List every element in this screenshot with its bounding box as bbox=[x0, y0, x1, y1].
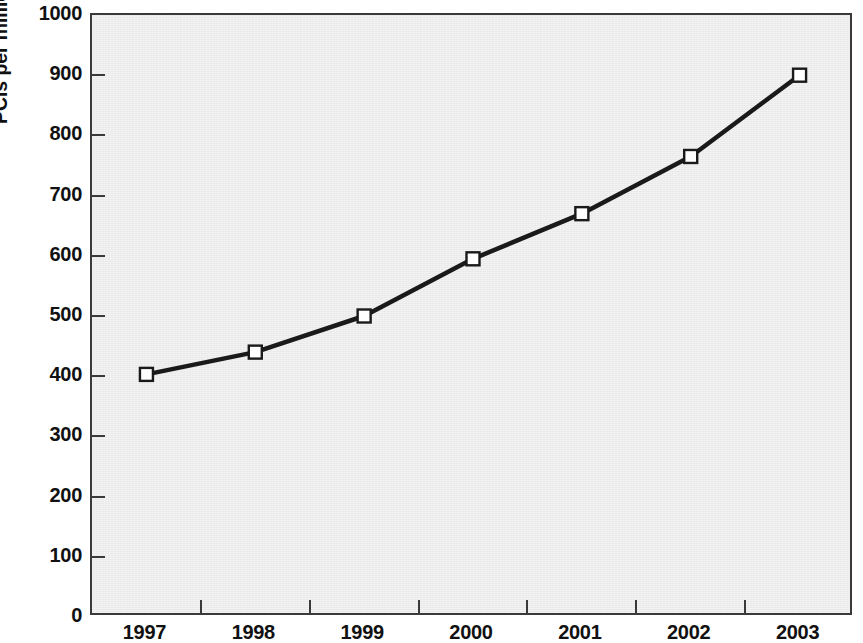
y-axis-title: PCIs per million population bbox=[0, 0, 30, 643]
y-axis-tick-label: 1000 bbox=[28, 1, 82, 25]
y-axis-tick-label: 400 bbox=[28, 362, 82, 386]
series-markers bbox=[140, 69, 806, 381]
y-axis-title-label: PCIs per million population bbox=[0, 0, 14, 314]
data-series-layer bbox=[92, 15, 854, 617]
data-point-marker bbox=[575, 207, 588, 220]
x-axis-tick-label: 1999 bbox=[302, 618, 422, 643]
line-chart-figure: PCIs per million population 010020030040… bbox=[0, 0, 863, 643]
data-point-marker bbox=[467, 252, 480, 265]
x-axis-tick-label: 2001 bbox=[520, 618, 640, 643]
y-axis-tick-label: 800 bbox=[28, 121, 82, 145]
x-axis-tick-label: 1998 bbox=[193, 618, 313, 643]
y-axis-tick-label: 900 bbox=[28, 61, 82, 85]
y-axis-tick-label: 0 bbox=[28, 603, 82, 627]
data-point-marker bbox=[358, 310, 371, 323]
x-axis-tick-label: 2000 bbox=[411, 618, 531, 643]
y-axis-tick-label: 300 bbox=[28, 422, 82, 446]
x-axis-tick-label: 1997 bbox=[84, 618, 204, 643]
x-axis-tick-label: 2002 bbox=[629, 618, 749, 643]
data-point-marker bbox=[140, 368, 153, 381]
data-point-marker bbox=[249, 346, 262, 359]
data-point-marker bbox=[684, 150, 697, 163]
y-axis-tick-label: 600 bbox=[28, 242, 82, 266]
y-axis-tick-labels: 01002003004005006007008009001000 bbox=[28, 0, 82, 643]
y-axis-tick-label: 500 bbox=[28, 302, 82, 326]
y-axis-tick-label: 700 bbox=[28, 182, 82, 206]
y-axis-tick-label: 100 bbox=[28, 543, 82, 567]
x-axis-tick-label: 2003 bbox=[738, 618, 858, 643]
plot-area bbox=[90, 13, 852, 615]
series-line bbox=[146, 75, 799, 374]
data-point-marker bbox=[793, 69, 806, 82]
x-axis-tick-labels: 1997199819992000200120022003 bbox=[90, 618, 852, 643]
y-axis-tick-label: 200 bbox=[28, 483, 82, 507]
